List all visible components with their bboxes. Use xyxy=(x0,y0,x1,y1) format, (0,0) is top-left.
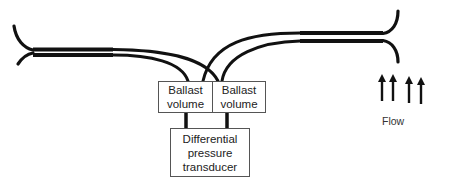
left-tube-to-left-ballast xyxy=(113,55,188,81)
ballast-volume-right: Ballast volume xyxy=(212,81,266,113)
right-probe-lower-flare xyxy=(383,41,398,63)
flow-arrow-icon xyxy=(417,77,425,104)
flow-arrow-icon xyxy=(389,74,397,101)
transducer-line3: transducer xyxy=(183,160,237,174)
ballast-left-line1: Ballast xyxy=(168,83,203,97)
transducer-line2: pressure xyxy=(188,146,233,160)
flow-label: Flow xyxy=(382,115,404,127)
flow-arrow-icon xyxy=(378,74,386,101)
differential-pressure-transducer: Differential pressure transducer xyxy=(170,128,250,177)
flow-arrows xyxy=(378,74,425,104)
transducer-line1: Differential xyxy=(183,132,238,146)
left-probe-lower-flare xyxy=(18,53,33,64)
right-probe-upper-flare xyxy=(383,11,398,34)
right-tube-to-left-ballast xyxy=(203,33,300,81)
ballast-left-line2: volume xyxy=(167,97,204,111)
flow-arrow-icon xyxy=(405,76,413,103)
ballast-right-line2: volume xyxy=(220,97,257,111)
ballast-volume-left: Ballast volume xyxy=(158,81,213,113)
ballast-right-line1: Ballast xyxy=(222,83,257,97)
left-probe-upper-flare xyxy=(14,26,33,50)
right-tube-to-right-ballast xyxy=(222,41,300,81)
